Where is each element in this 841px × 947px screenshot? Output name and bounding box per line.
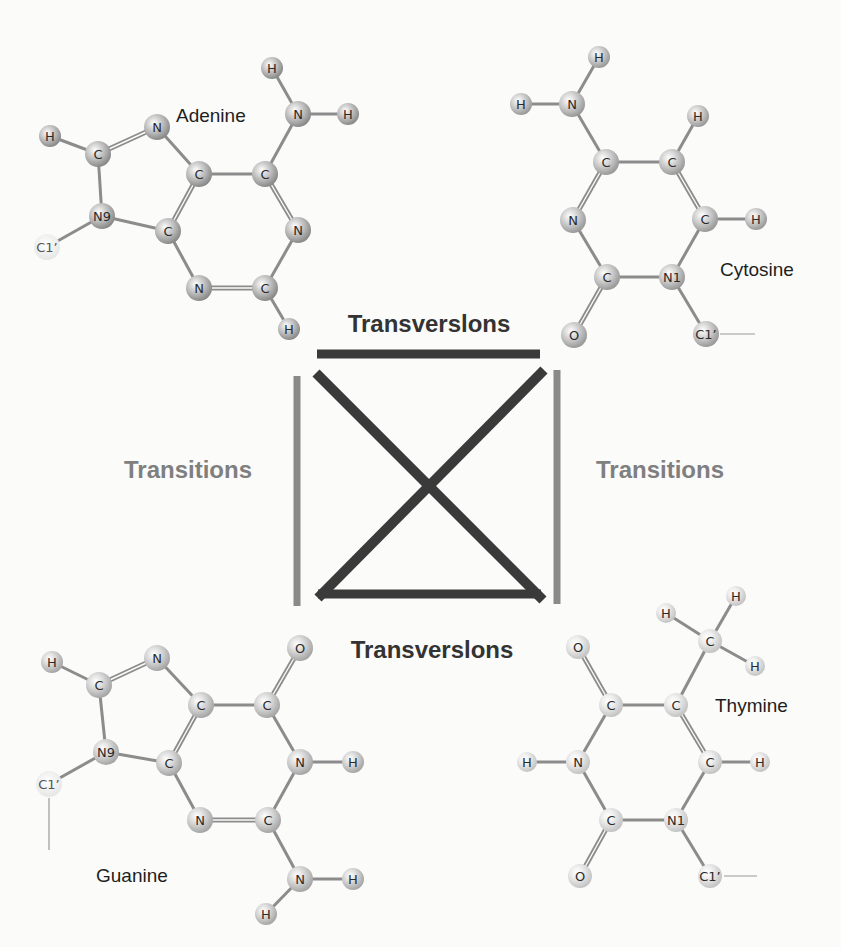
atom-label: H [348, 872, 358, 887]
atom-n6: N [285, 101, 311, 127]
atom-label: H [267, 61, 277, 76]
atom-h2a: H [342, 868, 364, 890]
atom-label: H [751, 212, 761, 227]
atom-label: C [705, 755, 714, 770]
atom-label: N9 [93, 209, 111, 224]
atom-c8: C [86, 672, 112, 698]
cytosine-label: Cytosine [720, 259, 794, 280]
atom-label: N [573, 755, 583, 770]
transversion-label-bottom: Transverslons [351, 636, 514, 663]
atom-c8: C [85, 141, 111, 167]
atom-h6b: H [337, 103, 359, 125]
adenine-label: Adenine [176, 105, 246, 126]
atom-label: C [667, 155, 676, 170]
atom-h8: H [41, 651, 63, 673]
atom-n7: N [144, 645, 170, 671]
atom-c5: C [664, 693, 688, 717]
atom-c1p: C1’ [34, 234, 60, 260]
atom-h4b: H [510, 93, 532, 115]
atom-n2: N [287, 866, 313, 892]
atom-label: C [671, 698, 680, 713]
atom-label: N [194, 281, 204, 296]
molecule-adenine: HCNN9C1’CCCNHHNCNHAdenine [34, 57, 359, 340]
atom-label: C [260, 281, 269, 296]
atom-label: C [260, 167, 269, 182]
molecules: HCNN9C1’CCCNHHNCNHAdenineHNHCCHNCHCN1OC1… [34, 46, 794, 925]
atom-h2b: H [255, 903, 277, 925]
atom-c2: C [252, 275, 278, 301]
atom-label: N [293, 107, 303, 122]
atom-label: C [194, 167, 203, 182]
atom-label: N [295, 755, 305, 770]
mutation-square [297, 354, 557, 606]
atom-label: H [755, 755, 765, 770]
atom-label: C [94, 678, 103, 693]
atom-n4: N [559, 91, 585, 117]
atom-n1: N [287, 749, 313, 775]
atom-c5: C [188, 692, 214, 718]
atom-n1: N [285, 217, 311, 243]
atom-label: H [522, 755, 532, 770]
atom-c1p: C1’ [698, 864, 722, 888]
atom-h6a: H [261, 57, 283, 79]
atom-label: H [348, 755, 358, 770]
transversion-label-top: Transverslons [348, 310, 511, 337]
atom-n3: N [566, 750, 590, 774]
atom-h1: H [342, 751, 364, 773]
transition-label-left: Transitions [124, 456, 252, 483]
atom-c6: C [254, 692, 280, 718]
atom-h7c: H [745, 656, 765, 676]
atom-label: C [93, 147, 102, 162]
atom-c5: C [186, 161, 212, 187]
atom-label: C [196, 698, 205, 713]
atom-label: C [262, 698, 271, 713]
atom-label: H [343, 107, 353, 122]
atom-n9: N9 [89, 203, 115, 229]
atom-label: N [152, 120, 162, 135]
atom-label: H [45, 129, 55, 144]
atom-c2: C [599, 808, 623, 832]
atom-c1p: C1’ [36, 771, 62, 797]
atom-label: C [606, 698, 615, 713]
atom-n3: N [560, 207, 586, 233]
atom-c6: C [698, 750, 722, 774]
atom-c6: C [692, 206, 718, 232]
atom-label: N [293, 223, 303, 238]
atom-label: C1’ [36, 240, 57, 255]
atom-label: C1’ [699, 869, 720, 884]
molecule-guanine: HCNN9C1’CCCONHCNNHHGuanine [36, 635, 364, 925]
atom-o4: O [566, 635, 590, 659]
atom-label: C [263, 813, 272, 828]
atom-c2: C [255, 807, 281, 833]
atom-n9: N9 [93, 739, 119, 765]
molecule-cytosine: HNHCCHNCHCN1OC1’Cytosine [510, 46, 794, 348]
atom-label: N1 [667, 813, 685, 828]
thymine-bonds [527, 596, 760, 877]
transition-label-right: Transitions [596, 456, 724, 483]
atom-label: H [731, 589, 741, 604]
atom-label: N1 [663, 270, 681, 285]
atom-c1p: C1’ [693, 321, 719, 347]
guanine-label: Guanine [96, 865, 168, 886]
atom-n3: N [187, 807, 213, 833]
atom-label: C [601, 155, 610, 170]
atom-h5: H [687, 105, 709, 127]
atom-label: O [295, 641, 305, 656]
atom-label: C1’ [695, 327, 716, 342]
atom-label: H [47, 655, 57, 670]
atom-n3: N [186, 275, 212, 301]
atom-c4: C [155, 218, 181, 244]
atom-h7a: H [726, 586, 746, 606]
atom-label: N [567, 97, 577, 112]
cytosine-bonds [521, 57, 756, 336]
atom-h7b: H [656, 603, 676, 623]
atom-o2: O [568, 864, 592, 888]
atom-label: H [693, 109, 703, 124]
atom-c2: C [594, 264, 620, 290]
atom-n1: N1 [664, 808, 688, 832]
thymine-label: Thymine [715, 695, 788, 716]
atom-label: O [569, 328, 579, 343]
atom-label: H [594, 50, 604, 65]
atom-c5: C [659, 149, 685, 175]
atom-o6: O [287, 635, 313, 661]
